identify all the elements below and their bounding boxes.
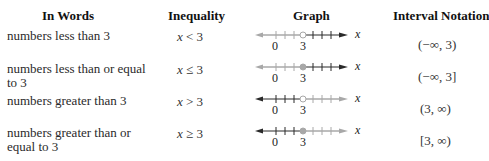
- cut-off-caption: [7, 155, 97, 161]
- variable: x: [177, 62, 183, 77]
- tick-label-0: 0: [272, 103, 278, 118]
- variable: x: [177, 126, 183, 141]
- tick-label-3: 3: [300, 71, 306, 86]
- row-4-number-line: 0 3 x: [252, 120, 367, 150]
- header-inequality: Inequality: [168, 8, 225, 24]
- number-line-graph: [252, 56, 367, 86]
- row-1-words: numbers less than 3: [7, 29, 147, 43]
- tick-label-0: 0: [272, 135, 278, 150]
- row-2-words: numbers less than or equal to 3: [7, 62, 147, 90]
- variable: x: [177, 29, 183, 44]
- row-3-number-line: 0 3 x: [252, 88, 367, 118]
- row-2-number-line: 0 3 x: [252, 56, 367, 86]
- tick-label-3: 3: [300, 39, 306, 54]
- axis-label-x: x: [355, 91, 360, 106]
- row-3-interval: (3, ∞): [420, 101, 451, 117]
- relation: > 3: [186, 94, 203, 109]
- header-interval-notation: Interval Notation: [393, 8, 489, 24]
- row-4-words: numbers greater than or equal to 3: [7, 126, 147, 154]
- row-4-interval: [3, ∞): [420, 133, 451, 149]
- number-line-graph: [252, 88, 367, 118]
- row-3-words: numbers greater than 3: [7, 94, 147, 108]
- number-line-graph: [252, 120, 367, 150]
- relation: ≤ 3: [186, 62, 203, 77]
- tick-label-3: 3: [300, 103, 306, 118]
- row-2-inequality: x ≤ 3: [177, 62, 203, 78]
- header-graph: Graph: [293, 8, 330, 24]
- row-1-inequality: x < 3: [177, 29, 203, 45]
- row-4-inequality: x ≥ 3: [177, 126, 203, 142]
- tick-label-0: 0: [272, 39, 278, 54]
- row-1-interval: (−∞, 3): [418, 37, 456, 53]
- tick-label-3: 3: [300, 135, 306, 150]
- axis-label-x: x: [355, 59, 360, 74]
- axis-label-x: x: [355, 123, 360, 138]
- variable: x: [177, 94, 183, 109]
- relation: ≥ 3: [186, 126, 203, 141]
- number-line-graph: [252, 24, 367, 54]
- row-1-number-line: 0 3 x: [252, 24, 367, 54]
- row-3-inequality: x > 3: [177, 94, 203, 110]
- axis-label-x: x: [355, 27, 360, 42]
- header-in-words: In Words: [42, 8, 94, 24]
- relation: < 3: [186, 29, 203, 44]
- row-2-interval: (−∞, 3]: [418, 69, 456, 85]
- tick-label-0: 0: [272, 71, 278, 86]
